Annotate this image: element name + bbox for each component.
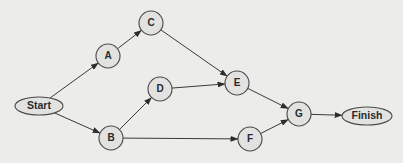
node-start-label: Start	[27, 99, 51, 111]
edge-b-to-d	[119, 97, 151, 129]
node-e-label: E	[234, 77, 241, 88]
edge-f-to-g	[261, 119, 289, 133]
node-c: C	[139, 11, 163, 35]
nodes-layer: StartABCDEFGFinish	[15, 11, 392, 151]
node-a-label: A	[104, 50, 111, 61]
node-c-label: C	[147, 17, 154, 28]
edge-start-to-b	[54, 113, 100, 133]
edge-c-to-e	[161, 30, 227, 76]
node-b: B	[99, 126, 123, 150]
edge-d-to-e	[172, 84, 225, 88]
node-start: Start	[15, 97, 63, 115]
edge-e-to-g	[248, 88, 289, 108]
node-g: G	[287, 102, 311, 126]
network-diagram: StartABCDEFGFinish	[0, 0, 403, 163]
node-finish: Finish	[342, 107, 392, 125]
node-f: F	[238, 127, 262, 151]
node-g-label: G	[295, 108, 303, 119]
edge-g-to-finish	[311, 114, 342, 115]
edge-b-to-f	[123, 138, 238, 139]
node-b-label: B	[107, 132, 114, 143]
node-a: A	[96, 44, 120, 68]
node-d: D	[148, 77, 172, 101]
node-e: E	[225, 71, 249, 95]
node-d-label: D	[156, 83, 163, 94]
node-f-label: F	[247, 133, 253, 144]
node-finish-label: Finish	[352, 109, 383, 121]
edge-start-to-a	[50, 63, 98, 98]
edge-a-to-c	[118, 30, 142, 48]
